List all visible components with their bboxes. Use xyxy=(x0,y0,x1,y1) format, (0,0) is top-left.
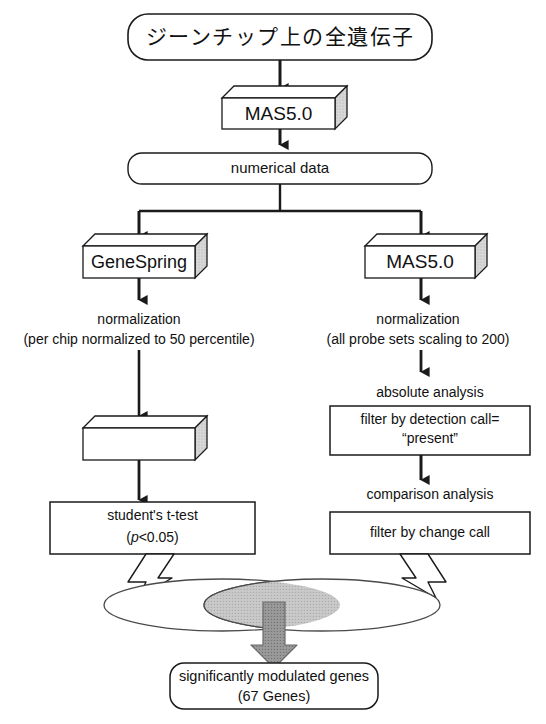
node-mas5-top-shape xyxy=(222,86,347,129)
node-numerical-data-shape xyxy=(128,153,432,184)
node-source-shape xyxy=(128,14,432,60)
flowchart-diagram: ジーンチップ上の全遺伝子 MAS5.0 numerical data GeneS… xyxy=(0,0,546,724)
node-excel-shape xyxy=(83,416,207,460)
node-mas5-right-shape xyxy=(365,234,487,278)
edge-branch-connector xyxy=(139,184,421,236)
node-detection-filter-shape xyxy=(330,406,530,455)
node-genespring-shape xyxy=(83,234,207,278)
node-result-shape xyxy=(170,663,378,709)
node-change-filter-shape xyxy=(330,512,530,554)
diagram-vector-layer xyxy=(0,0,546,724)
node-t-test-shape xyxy=(50,502,255,554)
